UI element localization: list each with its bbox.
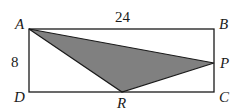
label-vertex-c: C	[219, 89, 230, 105]
geometry-diagram: 24 8 A B C D P R	[0, 0, 237, 111]
label-vertex-a: A	[14, 16, 25, 32]
label-side-left: 8	[11, 54, 19, 70]
label-vertex-d: D	[13, 89, 25, 105]
label-side-top: 24	[115, 9, 131, 25]
shaded-triangle-apr	[29, 29, 214, 92]
label-point-p: P	[219, 55, 229, 71]
label-point-r: R	[116, 95, 126, 111]
label-vertex-b: B	[219, 16, 228, 32]
